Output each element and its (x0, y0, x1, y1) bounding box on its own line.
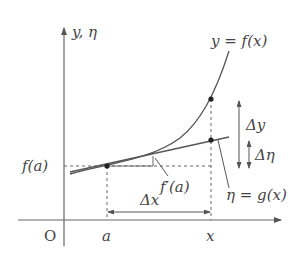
x-tick-x-label: x (206, 227, 215, 245)
slope-triangle (107, 156, 153, 166)
point-curve-x (208, 96, 213, 101)
delta-x-label: Δx (139, 191, 160, 209)
curve-f (70, 51, 229, 174)
slope-pointer (155, 158, 168, 176)
delta-eta-label: Δη (254, 146, 275, 164)
origin-label: O (44, 227, 56, 245)
x-tick-a-label: a (102, 227, 111, 245)
curve-label: y = f(x) (210, 32, 267, 50)
derivative-diagram: y, η O a x y = f(x) η = g(x) f(a) f′(a) … (0, 0, 308, 257)
tangent-label: η = g(x) (226, 186, 287, 204)
tangent-line (70, 137, 229, 172)
point-tangent-x (208, 137, 213, 142)
delta-y-label: Δy (245, 116, 266, 134)
tangent-pointer (218, 140, 229, 188)
slope-label: f′(a) (159, 178, 190, 196)
fa-label: f(a) (21, 157, 48, 175)
point-a (104, 163, 109, 168)
y-axis-label: y, η (71, 23, 97, 41)
